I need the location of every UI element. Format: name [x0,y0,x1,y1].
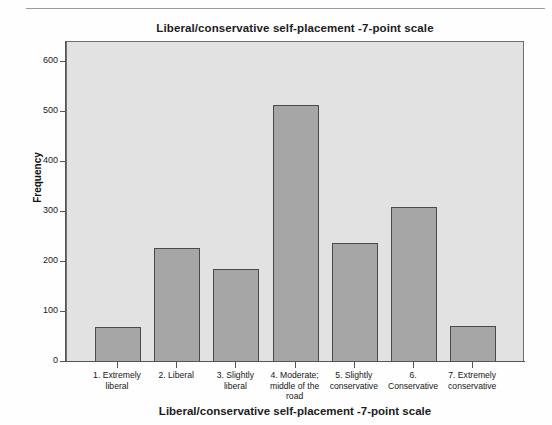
header-divider [26,8,545,9]
bar [450,326,496,361]
y-axis-tick [60,61,65,62]
x-axis-tick-label-line: 6. [409,370,416,380]
y-axis-tick [60,361,65,362]
x-axis-tick-label-line: 5. Slightly [335,370,372,380]
y-axis-tick-label: 500 [24,106,58,115]
bar [213,269,259,361]
y-axis-tick [60,161,65,162]
x-axis-tick-label-line: liberal [224,381,247,391]
y-axis-tick-label: 600 [24,56,58,65]
plot-area [66,41,524,362]
bar [332,243,378,361]
x-axis-tick-label-line: 1. Extremely [93,370,141,380]
y-axis-tick [60,211,65,212]
bar [95,327,141,361]
y-axis-tick [60,311,65,312]
x-axis-tick-label: 7. Extremelyconservative [438,370,506,391]
x-axis-tick-label-line: Conservative [388,381,438,391]
y-axis-line [65,41,66,362]
y-axis-tick-label: 100 [24,306,58,315]
x-axis-tick-label-line: liberal [106,381,129,391]
y-axis-tick-label: 200 [24,256,58,265]
x-axis-tick [176,362,177,368]
y-axis-tick [60,261,65,262]
x-axis-tick-label: 6.Conservative [379,370,447,391]
x-axis-tick-label-line: middle of the [270,381,319,391]
bar [391,207,437,361]
x-axis-tick [413,362,414,368]
x-axis-tick-label: 5. Slightlyconservative [320,370,388,391]
x-axis-tick-label: 1. Extremelyliberal [83,370,151,391]
x-axis-tick [235,362,236,368]
x-axis-tick-label-line: conservative [330,381,378,391]
x-axis-tick-label-line: 4. Moderate; [270,370,318,380]
x-axis-tick [472,362,473,368]
x-axis-tick [295,362,296,368]
y-axis-tick [60,111,65,112]
bar [273,105,319,361]
chart-title: Liberal/conservative self-placement -7-p… [66,22,524,34]
x-axis-tick-label-line: 7. Extremely [448,370,496,380]
x-axis-tick-label-line: 2. Liberal [159,370,194,380]
x-axis-tick-label: 3. Slightlyliberal [201,370,269,391]
bar [154,248,200,361]
x-axis-title: Liberal/conservative self-placement -7-p… [66,405,524,417]
x-axis-tick [354,362,355,368]
x-axis-tick-label-line: road [286,391,303,401]
bars-layer [67,42,523,361]
x-axis-tick [117,362,118,368]
x-axis-tick-label: 4. Moderate;middle of theroad [261,370,329,402]
chart-page: Liberal/conservative self-placement -7-p… [0,0,552,425]
x-axis-tick-label-line: conservative [448,381,496,391]
y-axis-title: Frequency [32,118,43,238]
y-axis-tick-label: 0 [24,356,58,365]
x-axis-tick-label-line: 3. Slightly [217,370,254,380]
x-axis-tick-label: 2. Liberal [142,370,210,381]
